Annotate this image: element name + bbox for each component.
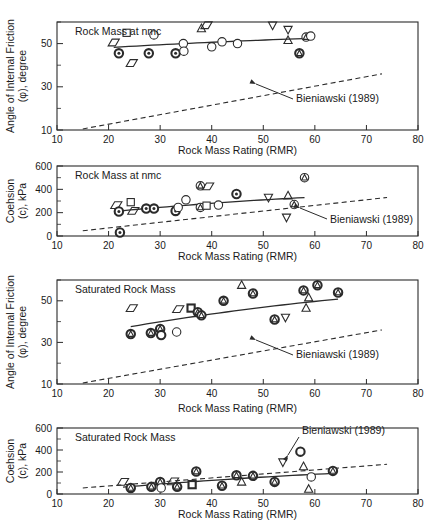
y-axis-title-line2: (φ), degree: [16, 306, 28, 358]
x-tick-label: 20: [103, 498, 115, 509]
data-point-circle: [174, 203, 182, 211]
x-tick-label: 80: [412, 134, 424, 145]
panel-title: Rock Mass at nmc: [75, 169, 161, 181]
panel-1: 1020304050607080103050Rock Mass at nmcRo…: [0, 4, 439, 156]
y-tick-label: 600: [35, 161, 52, 172]
data-point-inner-dot: [118, 231, 121, 234]
data-point-circle: [172, 328, 180, 336]
x-tick-label: 20: [103, 240, 115, 251]
x-tick-label: 10: [51, 498, 63, 509]
data-point-circle: [157, 484, 165, 492]
data-point-square: [189, 481, 196, 488]
y-axis-title-line2: (φ), degree: [16, 50, 28, 102]
panel-3-plot: 1020304050607080103050Saturated Rock Mas…: [0, 266, 439, 414]
annotation-arrow-icon: [250, 335, 256, 340]
data-point-parallelogram: [173, 306, 184, 313]
x-axis-title: Rock Mass Rating (RMR): [178, 508, 297, 520]
y-tick-label: 50: [41, 295, 53, 306]
y-tick-label: 400: [35, 184, 52, 195]
y-axis-title-line1: Angle of Internal Friction: [4, 275, 16, 389]
y-tick-label: 200: [35, 467, 52, 478]
x-tick-label: 10: [51, 388, 63, 399]
x-tick-label: 70: [361, 134, 373, 145]
x-tick-label: 40: [206, 388, 218, 399]
annotation-arrow-icon: [250, 79, 256, 84]
x-tick-label: 70: [361, 498, 373, 509]
annotation-arrow-icon: [283, 455, 288, 461]
x-tick-label: 80: [412, 498, 424, 509]
x-tick-label: 80: [412, 388, 424, 399]
x-tick-label: 10: [51, 134, 63, 145]
x-tick-label: 30: [155, 498, 167, 509]
data-point-inner-dot: [235, 193, 238, 196]
data-point-triangle-up: [302, 304, 310, 312]
data-point-circle: [296, 447, 304, 455]
x-tick-label: 70: [361, 388, 373, 399]
y-tick-label: 30: [41, 81, 53, 92]
data-point-parallelogram: [128, 208, 139, 215]
best-fit-curve: [131, 299, 338, 327]
y-tick-label: 10: [41, 379, 53, 390]
data-point-inner-dot: [174, 52, 177, 55]
y-tick-label: 200: [35, 207, 52, 218]
data-point-square: [203, 202, 210, 209]
data-point-inner-dot: [145, 207, 148, 210]
data-point-group: [111, 173, 309, 236]
data-point-square: [127, 199, 134, 206]
rock-mass-figure: 1020304050607080103050Rock Mass at nmcRo…: [0, 0, 439, 522]
y-axis-title-line2: (c), kPa: [16, 183, 28, 219]
data-point-group: [117, 447, 337, 492]
panel-title: Saturated Rock Mass: [75, 283, 175, 295]
data-point-circle: [214, 201, 222, 209]
data-point-inner-dot: [117, 210, 120, 213]
x-tick-label: 10: [51, 240, 63, 251]
data-point-inner-dot: [117, 52, 120, 55]
y-axis-title-line2: (c), kPa: [16, 443, 28, 479]
data-point-inner-dot: [152, 207, 155, 210]
data-point-parallelogram: [126, 305, 137, 312]
data-point-circle: [307, 473, 315, 481]
data-point-circle: [180, 47, 188, 55]
panel-1-plot: 1020304050607080103050Rock Mass at nmcRo…: [0, 4, 439, 156]
x-tick-label: 60: [309, 498, 321, 509]
x-tick-label: 20: [103, 388, 115, 399]
data-point-inner-dot: [147, 52, 150, 55]
x-tick-label: 30: [155, 388, 167, 399]
data-point-triangle-down: [284, 26, 292, 34]
data-point-circle: [233, 39, 241, 47]
y-tick-label: 0: [46, 489, 52, 500]
y-axis-title-line1: Coehsion: [4, 439, 16, 484]
y-tick-label: 30: [41, 337, 53, 348]
panel-2: 10203040506070800200400600Rock Mass at n…: [0, 156, 439, 266]
bieniawski-annotation-label: Bieniawski (1989): [302, 424, 385, 436]
x-tick-label: 20: [103, 134, 115, 145]
panel-3: 1020304050607080103050Saturated Rock Mas…: [0, 266, 439, 414]
data-point-parallelogram: [108, 39, 119, 46]
x-tick-label: 30: [155, 240, 167, 251]
data-point-triangle-up: [238, 281, 246, 289]
plot-frame: [57, 280, 418, 384]
data-point-parallelogram: [126, 60, 137, 67]
data-point-circle: [218, 38, 226, 46]
data-point-triangle-down: [268, 22, 276, 30]
x-tick-label: 60: [309, 134, 321, 145]
annotation-leader-line: [256, 84, 293, 99]
data-point-circle: [307, 32, 315, 40]
y-tick-label: 10: [41, 125, 53, 136]
data-point-triangle-down: [264, 194, 272, 202]
y-axis-title-line1: Angle of Internal Friction: [4, 19, 16, 133]
x-tick-label: 60: [309, 240, 321, 251]
y-axis-title-line1: Coehsion: [4, 179, 16, 224]
bieniawski-annotation-label: Bieniawski (1989): [296, 348, 379, 360]
data-point-parallelogram: [201, 22, 212, 29]
bieniawski-annotation-label: Bieniawski (1989): [296, 92, 379, 104]
data-point-circle: [157, 331, 165, 339]
panel-4-plot: 10203040506070800200400600Saturated Rock…: [0, 414, 439, 522]
x-axis-title: Rock Mass Rating (RMR): [178, 144, 297, 156]
y-tick-label: 0: [46, 231, 52, 242]
data-point-triangle-down: [282, 214, 290, 222]
y-tick-label: 50: [41, 38, 53, 49]
annotation-leader-line: [256, 340, 293, 355]
x-tick-label: 80: [412, 240, 424, 251]
panel-title: Rock Mass at nmc: [75, 25, 161, 37]
